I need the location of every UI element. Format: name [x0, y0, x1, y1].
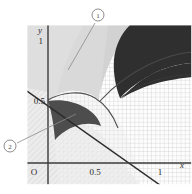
callout-1-label: 1	[96, 12, 100, 20]
x-axis-label: x	[179, 160, 184, 170]
y-tick-label-1: 1	[39, 36, 44, 46]
region-plot-figure: y x 1 0.5 0.5 1 O 1 2	[0, 0, 192, 194]
y-tick-label-0-5: 0.5	[34, 96, 46, 106]
origin-label: O	[31, 167, 38, 177]
x-tick-label-0-5: 0.5	[89, 167, 101, 177]
plot-canvas: y x 1 0.5 0.5 1 O 1 2	[0, 0, 192, 194]
x-tick-label-1: 1	[158, 167, 163, 177]
callout-2-label: 2	[8, 143, 12, 151]
plot-body	[27, 25, 192, 185]
y-axis-label: y	[37, 25, 42, 35]
light-region-left-sliver	[27, 25, 48, 92]
